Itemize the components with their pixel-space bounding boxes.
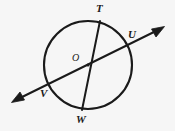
point-label-w: W [76,114,86,125]
center-point-dot [86,63,89,66]
arrowhead-right-icon [152,27,165,38]
geometry-figure: T U V W O [0,0,175,131]
point-label-t: T [96,3,103,14]
circle-diagram-svg [0,0,175,131]
arrowhead-left-icon [12,92,25,103]
point-label-u: U [128,29,136,40]
point-label-o: O [72,53,79,63]
point-label-v: V [40,88,47,99]
